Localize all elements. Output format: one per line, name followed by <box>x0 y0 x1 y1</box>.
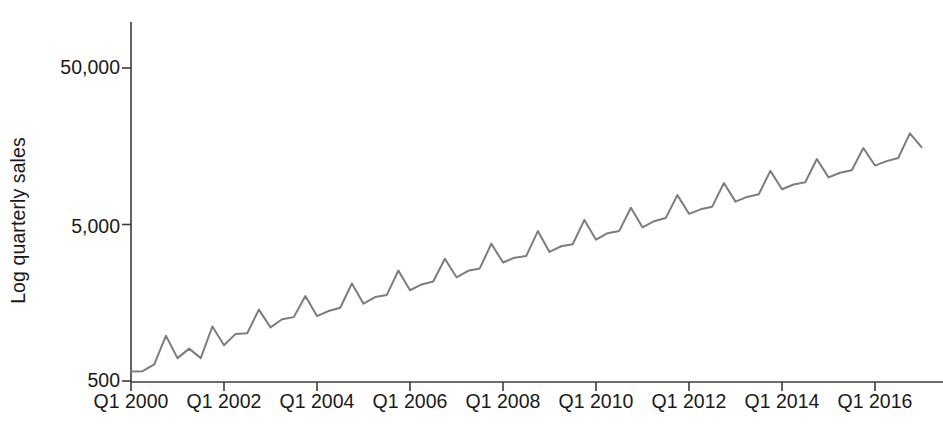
x-axis-tick-marks <box>131 382 875 391</box>
axis-lines <box>131 22 943 382</box>
chart-figure: Log quarterly sales 50,000 5,000 500 Q1 … <box>0 0 943 441</box>
plot-area <box>0 0 943 441</box>
series-line-quarterly-sales <box>131 133 922 371</box>
y-axis-tick-marks <box>122 68 131 381</box>
